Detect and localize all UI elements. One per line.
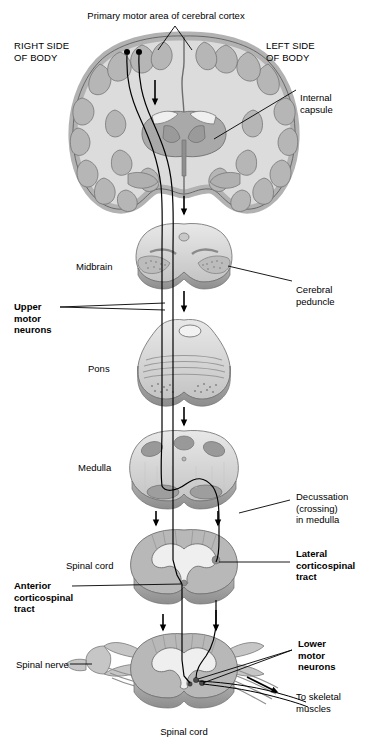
lateral-corticospinal-tract-zone	[212, 556, 220, 564]
leader-cerebral-peduncle	[228, 266, 292, 281]
central-canal	[182, 457, 186, 461]
pons-label: Pons	[88, 363, 138, 375]
bottom-caption: Spinal cord	[124, 726, 244, 738]
left-side-of-body-label: LEFT SIDE OF BODY	[266, 40, 362, 63]
cerebral-peduncle-label: Cerebral peduncle	[296, 284, 364, 307]
upper-motor-neuron-cell-body-2	[136, 49, 142, 55]
right-side-of-body-label: RIGHT SIDE OF BODY	[14, 40, 110, 63]
upper-motor-neuron-cell-body-1	[124, 49, 130, 55]
dorsal-nucleus-mid	[174, 436, 194, 450]
decussation-label: Decussation (crossing) in medulla	[296, 491, 368, 526]
anterior-corticospinal-tract-label: Anterior corticospinal tract	[14, 580, 100, 615]
spinal-cord-mid-label: Spinal cord	[66, 560, 138, 572]
internal-capsule-label: Internal capsule	[300, 92, 366, 115]
lateral-corticospinal-tract-label: Lateral corticospinal tract	[296, 548, 368, 583]
medulla-section	[130, 430, 239, 509]
spinal-cord-upper-section	[131, 529, 238, 604]
page-title: Primary motor area of cerebral cortex	[60, 10, 272, 22]
midbrain-label: Midbrain	[76, 261, 140, 273]
spinal-nerve-label: Spinal nerve	[16, 659, 82, 671]
fourth-ventricle	[179, 325, 201, 337]
third-ventricle	[182, 140, 186, 176]
lower-motor-neurons-label: Lower motor neurons	[298, 638, 362, 673]
leader-decussation	[239, 500, 290, 513]
upper-motor-neurons-label: Upper motor neurons	[14, 301, 84, 336]
cerebral-aqueduct	[179, 233, 189, 241]
spinal-cord-lower-section	[66, 633, 278, 708]
medulla-label: Medulla	[78, 462, 136, 474]
pons-section	[138, 319, 231, 406]
to-skeletal-muscles-label: To skeletal muscles	[296, 691, 366, 714]
midbrain-section	[136, 223, 232, 289]
